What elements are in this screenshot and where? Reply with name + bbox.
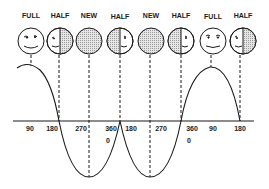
axis-label: 180 (46, 125, 58, 132)
half-moon-left-shaded-icon (168, 28, 194, 54)
phase-label-half-2: HALF (111, 13, 130, 20)
moon-faces (18, 28, 256, 54)
axis-label: 180 (125, 125, 137, 132)
axis-label: 180 (234, 125, 246, 132)
new-moon-icon (138, 28, 164, 54)
axis-label: 270 (155, 125, 167, 132)
phase-label-half-3: HALF (172, 12, 191, 19)
half-moon-right-shaded-icon (230, 28, 256, 54)
phase-labels: FULL HALF NEW HALF NEW HALF FULL HALF (22, 12, 253, 20)
phase-label-full-1: FULL (22, 12, 41, 19)
axis-label: 90 (209, 125, 217, 132)
axis-labels: 90 180 270 360 0 180 270 360 0 90 180 (26, 125, 246, 144)
axis-label: 0 (187, 137, 191, 144)
phase-label-new-1: NEW (81, 12, 98, 19)
dashed-guides (31, 55, 240, 177)
moon-phase-diagram: FULL HALF NEW HALF NEW HALF FULL HALF (0, 0, 269, 189)
half-moon-right-shaded-icon (47, 28, 73, 54)
axis-label: 0 (106, 137, 110, 144)
axis-label: 270 (75, 125, 87, 132)
phase-label-new-2: NEW (143, 12, 160, 19)
full-moon-face-icon (18, 28, 44, 54)
phase-label-half-1: HALF (51, 12, 70, 19)
axis-label: 90 (26, 125, 34, 132)
phase-label-half-4: HALF (234, 12, 253, 19)
axis-label: 360 (105, 125, 117, 132)
axis-label: 360 (186, 125, 198, 132)
phase-label-full-2: FULL (204, 13, 223, 20)
half-moon-left-shaded-icon (107, 28, 133, 54)
full-moon-face-icon (200, 28, 226, 54)
new-moon-icon (76, 28, 102, 54)
